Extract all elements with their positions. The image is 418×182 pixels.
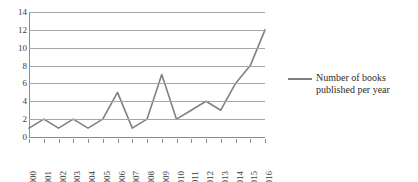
- x-tick-mark-2009: [162, 139, 163, 143]
- x-tick-label-text: 2006: [117, 171, 127, 182]
- x-tick-mark-2011: [191, 139, 192, 143]
- gridline-8: [29, 66, 265, 67]
- x-tick-mark-2005: [103, 139, 104, 143]
- legend-label-books: Number of books published per year: [316, 72, 412, 96]
- x-tick-mark-2015: [250, 139, 251, 143]
- y-tick-label-14: 14: [3, 8, 27, 17]
- x-tick-mark-2013: [221, 139, 222, 143]
- gridline-4: [29, 101, 265, 102]
- y-tick-label-2: 2: [3, 115, 27, 124]
- x-tick-label-text: 2000: [28, 171, 38, 182]
- y-tick-label-8: 8: [3, 62, 27, 71]
- x-tick-label-text: 2014: [235, 171, 245, 182]
- x-tick-label-text: 2010: [176, 171, 186, 182]
- x-tick-mark-2012: [206, 139, 207, 143]
- x-tick-mark-2000: [29, 139, 30, 143]
- x-tick-label-text: 2008: [146, 171, 156, 182]
- x-tick-label-text: 2001: [43, 171, 53, 182]
- legend-swatch-books: [288, 78, 312, 80]
- x-tick-label-text: 2009: [161, 171, 171, 182]
- chart-figure: 02468101214 2000200120022003200420052006…: [0, 0, 418, 182]
- x-tick-mark-2008: [147, 139, 148, 143]
- x-tick-label-text: 2015: [249, 171, 259, 182]
- x-tick-mark-2003: [73, 139, 74, 143]
- plot-area: [29, 12, 265, 137]
- x-tick-mark-2001: [44, 139, 45, 143]
- x-tick-mark-2002: [59, 139, 60, 143]
- x-tick-mark-2007: [132, 139, 133, 143]
- gridline-14: [29, 12, 265, 13]
- y-tick-label-4: 4: [3, 97, 27, 106]
- gridline-6: [29, 83, 265, 84]
- gridline-10: [29, 48, 265, 49]
- x-tick-label-text: 2016: [264, 171, 274, 182]
- x-tick-label-text: 2012: [205, 171, 215, 182]
- legend: Number of books published per year: [288, 72, 412, 96]
- y-tick-label-12: 12: [3, 26, 27, 35]
- y-tick-label-6: 6: [3, 79, 27, 88]
- gridline-2: [29, 119, 265, 120]
- x-tick-label-text: 2002: [58, 171, 68, 182]
- x-tick-label-text: 2011: [190, 171, 200, 182]
- y-axis: 02468101214: [0, 0, 27, 182]
- x-tick-mark-2010: [177, 139, 178, 143]
- x-tick-label-text: 2013: [220, 171, 230, 182]
- x-tick-label-text: 2003: [72, 171, 82, 182]
- gridline-12: [29, 30, 265, 31]
- gridline-0: [29, 137, 265, 138]
- x-tick-mark-2004: [88, 139, 89, 143]
- x-tick-label-text: 2005: [102, 171, 112, 182]
- x-tick-label-text: 2004: [87, 171, 97, 182]
- x-tick-mark-2016: [265, 139, 266, 143]
- x-tick-label-text: 2007: [131, 171, 141, 182]
- y-tick-label-10: 10: [3, 44, 27, 53]
- x-tick-mark-2006: [118, 139, 119, 143]
- y-tick-label-0: 0: [3, 133, 27, 142]
- x-axis: 2000200120022003200420052006200720082009…: [29, 139, 265, 182]
- x-tick-mark-2014: [236, 139, 237, 143]
